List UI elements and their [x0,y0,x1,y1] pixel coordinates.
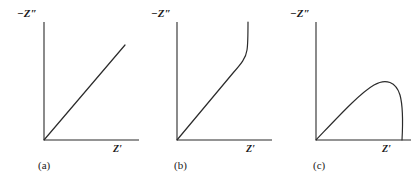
panel-b: −Z″ Z′ (b) [133,0,272,183]
panel-c-y-axis-label: −Z″ [290,8,310,19]
panel-a-caption: (a) [38,160,50,171]
panel-b-caption: (b) [174,160,187,171]
panel-b-plot [133,0,272,183]
panel-b-x-axis-label: Z′ [246,144,255,154]
panel-c-x-axis-label: Z′ [382,144,391,154]
impedance-figure: −Z″ Z′ (a) −Z″ Z′ (b) −Z″ Z′ (c) [0,0,419,183]
panel-b-curve [177,22,248,140]
panel-a-x-axis-label: Z′ [113,144,122,154]
panel-c-plot [272,0,411,183]
panel-c-curve [316,82,403,140]
panel-a: −Z″ Z′ (a) [0,0,139,183]
panel-a-y-axis-label: −Z″ [17,8,37,19]
panel-a-curve [44,45,125,140]
panel-b-y-axis-label: −Z″ [151,8,171,19]
panel-a-plot [0,0,139,183]
panel-c: −Z″ Z′ (c) [272,0,411,183]
panel-c-caption: (c) [313,160,325,171]
